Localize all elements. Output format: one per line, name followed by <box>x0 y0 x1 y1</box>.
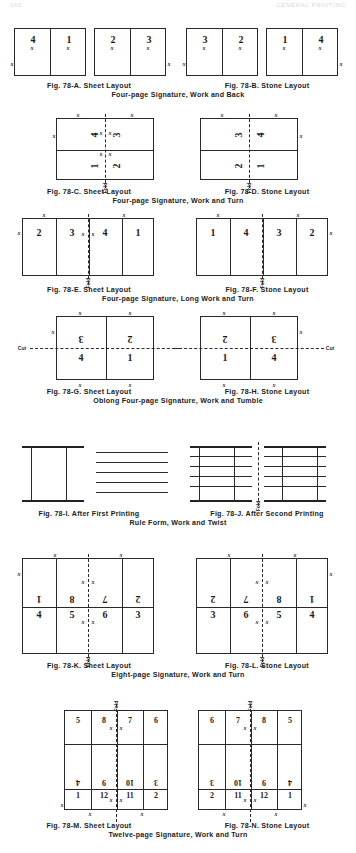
x-mark: x <box>256 579 259 585</box>
rule-vertical <box>66 446 67 502</box>
gutter-rule <box>222 29 223 75</box>
page-number: 5 <box>70 610 75 620</box>
page-number: 5 <box>76 717 80 725</box>
page-number: 1 <box>90 164 100 169</box>
page-number: 1 <box>67 35 72 45</box>
x-mark: x <box>221 112 224 118</box>
x-mark: x <box>141 811 144 817</box>
page-number: 9 <box>102 778 106 786</box>
caption-right: Fig. 78-F. Stone Layout <box>178 286 356 295</box>
caption-ef: Fig. 78-E. Sheet Layout Fig. 78-F. Stone… <box>0 286 356 304</box>
page-number: 8 <box>102 717 106 725</box>
page-rule <box>230 559 231 653</box>
x-mark: x <box>120 552 123 558</box>
x-mark: x <box>109 151 112 157</box>
x-mark: x <box>123 212 126 218</box>
caption-kl: Fig. 78-K. Sheet Layout Fig. 78-L. Stone… <box>0 662 356 680</box>
page-number: 4 <box>37 610 42 620</box>
rule-vertical <box>282 446 283 502</box>
x-mark: x <box>92 231 95 237</box>
x-mark: x <box>120 797 123 803</box>
figure-78-b-stone-2: 1 4 <box>266 28 338 76</box>
x-mark: x <box>100 130 103 136</box>
x-mark: x <box>18 571 21 577</box>
caption-mn: Fig. 78-M. Sheet Layout Fig. 78-N. Stone… <box>0 822 356 840</box>
page-number: 4 <box>272 353 277 363</box>
page-number: 1 <box>76 792 80 800</box>
x-mark: x <box>43 212 46 218</box>
section-cd: 4 3 1 2 x x x x x x x Fold 3 4 2 1 x <box>0 112 356 204</box>
page-number: 3 <box>272 334 277 344</box>
caption-left: Fig. 78-I. After First Printing <box>0 510 178 519</box>
caption-left: Fig. 78-M. Sheet Layout <box>0 822 178 831</box>
fold-line <box>258 442 259 506</box>
x-mark: x <box>183 61 186 67</box>
fold-label: Fold <box>247 183 252 194</box>
x-mark: x <box>168 61 171 67</box>
figure-row-ij: Fold <box>0 440 356 506</box>
gutter-rule <box>50 29 51 75</box>
page-number: 6 <box>154 717 158 725</box>
figure-78-i-cross-rules <box>96 452 168 498</box>
gutter-rule <box>130 29 131 75</box>
page-number: 4 <box>288 778 292 786</box>
page-number: 2 <box>239 35 244 45</box>
page-number: 8 <box>70 594 75 604</box>
rule-vertical <box>31 446 32 502</box>
page-number: 2 <box>310 228 315 238</box>
caption-sub: Four-page Signature, Work and Turn <box>0 197 356 206</box>
x-mark: x <box>283 45 286 51</box>
figure-row-gh: 3 2 4 1 Cut x x x x x 2 3 1 4 Cut x x <box>0 310 356 384</box>
x-mark: x <box>82 579 85 585</box>
page-number: 4 <box>90 133 100 138</box>
page-rule <box>56 559 57 653</box>
page-number: 4 <box>79 353 84 363</box>
x-mark: x <box>109 130 112 136</box>
page-rule <box>56 219 57 275</box>
page-number: 2 <box>111 35 116 45</box>
x-mark: x <box>111 45 114 51</box>
fold-line <box>88 554 89 662</box>
x-mark: x <box>120 725 123 731</box>
caption-right: Fig. 78-L. Stone Layout <box>178 662 356 671</box>
page-number: 1 <box>283 35 288 45</box>
fold-label: Fold <box>248 701 253 712</box>
page-rule <box>117 711 118 809</box>
x-mark: x <box>244 725 247 731</box>
page-number: 2 <box>234 164 244 169</box>
page-number: 4 <box>244 228 249 238</box>
rule-horizontal <box>96 472 168 473</box>
x-mark: x <box>297 212 300 218</box>
figure-78-j-right-grid <box>264 446 326 502</box>
figure-78-j-left-grid <box>190 446 252 502</box>
page-number: 1 <box>223 353 228 363</box>
page-number: 3 <box>210 778 214 786</box>
fold-label: Fold <box>260 657 265 668</box>
x-mark: x <box>89 811 92 817</box>
section-ij: Fold Fig. 78-I. After First Printing Fig… <box>0 440 356 528</box>
page-number: 12 <box>260 792 268 800</box>
caption-left: Fig. 78-C. Sheet Layout <box>0 188 178 197</box>
printing-imposition-page: 160 GENERAL PRINTING 4 1 x x x 2 3 x x x <box>0 0 356 853</box>
fold-line <box>262 214 263 284</box>
rule-horizontal <box>96 452 168 453</box>
page-number: 3 <box>136 610 141 620</box>
fold-label: Fold <box>260 278 265 289</box>
x-mark: x <box>228 552 231 558</box>
page-number: 2 <box>37 228 42 238</box>
page-number: 2 <box>154 792 158 800</box>
page-number: 3 <box>277 228 282 238</box>
x-mark: x <box>92 579 95 585</box>
page-folio: 160 <box>10 2 22 8</box>
page-number: 9 <box>262 778 266 786</box>
fold-line <box>262 554 263 662</box>
x-mark: x <box>110 797 113 803</box>
rule-horizontal <box>22 500 84 502</box>
fold-label: Fold <box>103 183 108 194</box>
fold-line <box>105 114 106 188</box>
page-number: 2 <box>223 334 228 344</box>
page-number: 2 <box>210 792 214 800</box>
x-mark: x <box>53 133 56 139</box>
page-number: 1 <box>37 594 42 604</box>
page-number: 2 <box>128 334 133 344</box>
